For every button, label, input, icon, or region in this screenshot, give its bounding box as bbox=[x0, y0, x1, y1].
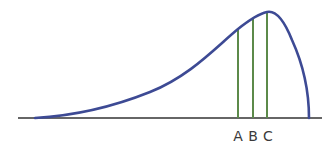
skewed-distribution-diagram: A B C bbox=[0, 0, 336, 150]
marker-label-a: A bbox=[233, 128, 243, 144]
marker-label-b: B bbox=[248, 128, 258, 144]
marker-label-c: C bbox=[263, 128, 273, 144]
